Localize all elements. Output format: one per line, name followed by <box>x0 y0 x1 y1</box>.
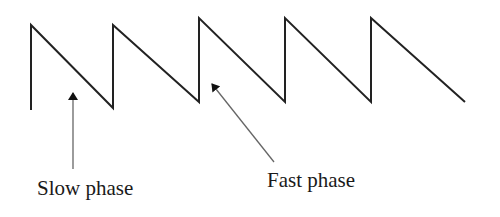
nystagmus-diagram: Slow phase Fast phase <box>0 0 500 217</box>
fast-phase-arrow <box>212 84 274 162</box>
fast-phase-label: Fast phase <box>267 168 355 192</box>
slow-phase-label: Slow phase <box>37 176 133 200</box>
sawtooth-waveform <box>31 18 465 110</box>
diagram-svg: Slow phase Fast phase <box>0 0 500 217</box>
